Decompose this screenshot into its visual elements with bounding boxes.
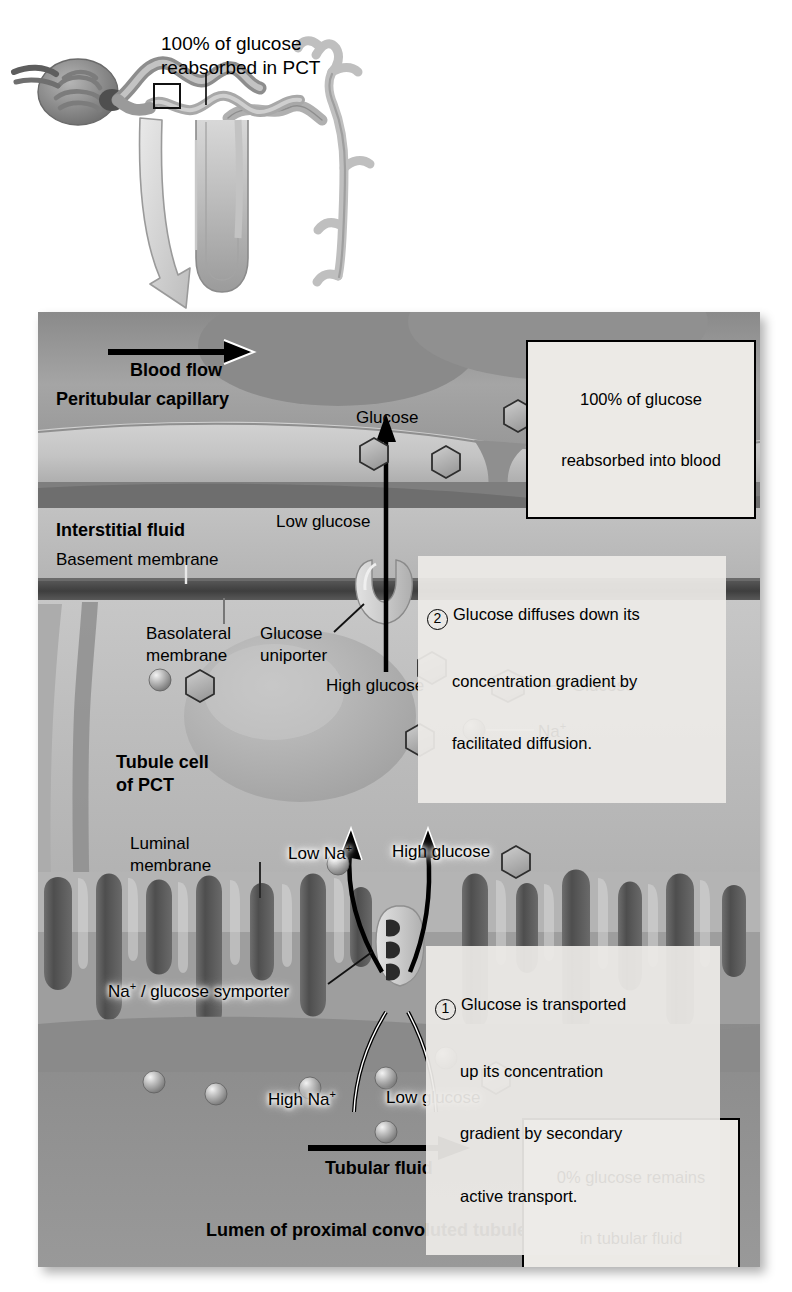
step-1-line1: 1Glucose is transported	[435, 994, 711, 1020]
high-glucose-cell-top-label: High glucose	[392, 842, 490, 861]
step-1-box: 1Glucose is transported up its concentra…	[426, 946, 720, 1255]
vasa-recta	[238, 120, 240, 238]
basolateral-membrane-label-line1: Basolateral	[146, 624, 231, 643]
callout-reabsorbed-into-blood: 100% of glucose reabsorbed into blood	[526, 340, 756, 519]
glucose-hexagon	[360, 438, 388, 470]
low-glucose-interstitial-label: Low glucose	[276, 512, 371, 531]
step-2-line3: facilitated diffusion.	[427, 733, 717, 754]
glucose-uniporter-label-line1: Glucose	[260, 624, 322, 643]
zoom-arrow	[140, 118, 190, 308]
glomerulus	[14, 59, 125, 125]
callout-line2: reabsorbed into blood	[538, 450, 744, 470]
high-sodium-lumen-text: High Na	[268, 1090, 329, 1109]
glucose-hexagon	[432, 446, 460, 478]
step-2-line2: concentration gradient by	[427, 671, 717, 692]
low-sodium-cell-label: Low Na+	[288, 842, 352, 863]
step-1-line4: active transport.	[435, 1186, 711, 1207]
step-1-line2: up its concentration	[435, 1061, 711, 1082]
step-1-line3: gradient by secondary	[435, 1123, 711, 1144]
top-callout-line2: reabsorbed in PCT	[161, 57, 320, 78]
glucose-capillary-label: Glucose	[356, 408, 418, 427]
symporter-label: Na+ / glucose symporter	[108, 980, 289, 1001]
high-glucose-cell-label: High glucose	[326, 676, 424, 695]
step-2-box: 2Glucose diffuses down its concentration…	[418, 556, 726, 803]
callout-line1: 100% of glucose	[538, 389, 744, 409]
step-2-line1: 2Glucose diffuses down its	[427, 604, 717, 630]
top-callout-line1: 100% of glucose	[161, 33, 302, 54]
step-2-text-line1: Glucose diffuses down its	[453, 605, 640, 623]
sodium-sphere	[205, 1083, 227, 1105]
sodium-sphere	[375, 1067, 397, 1089]
step-1-text-line1: Glucose is transported	[461, 995, 626, 1013]
tubule-cell-label-line2: of PCT	[116, 775, 174, 795]
basolateral-membrane-label-line2: membrane	[146, 646, 227, 665]
symporter-label-suffix: / glucose symporter	[136, 982, 289, 1001]
nephron-diagram	[0, 0, 792, 312]
symporter-label-prefix: Na	[108, 982, 130, 1001]
low-sodium-cell-text: Low Na	[288, 844, 346, 863]
na-glucose-symporter	[376, 906, 424, 986]
sodium-sphere	[149, 669, 171, 691]
high-sodium-lumen-label: High Na+	[268, 1088, 336, 1109]
sodium-sphere	[143, 1071, 165, 1093]
tubular-fluid-label: Tubular fluid	[325, 1158, 433, 1178]
pct-detail-panel: Blood flow Tubular fluid Peritubular cap…	[38, 312, 760, 1267]
luminal-membrane-label-line1: Luminal	[130, 834, 190, 853]
interstitial-fluid-label: Interstitial fluid	[56, 520, 185, 540]
peritubular-capillary-label: Peritubular capillary	[56, 389, 229, 409]
sodium-sphere	[375, 1121, 397, 1143]
glucose-hexagon	[502, 846, 530, 878]
glucose-uniporter-label-line2: uniporter	[260, 646, 327, 665]
basement-membrane-label: Basement membrane	[56, 550, 219, 569]
tubule-cell-label-line1: Tubule cell	[116, 752, 209, 772]
luminal-membrane-label-line2: membrane	[130, 856, 211, 875]
nephron-overview-panel: 100% of glucose reabsorbed in PCT	[0, 0, 792, 312]
step-2-number: 2	[427, 609, 448, 630]
glucose-hexagon	[186, 670, 214, 702]
step-1-number: 1	[435, 999, 456, 1020]
blood-flow-label: Blood flow	[130, 360, 222, 380]
